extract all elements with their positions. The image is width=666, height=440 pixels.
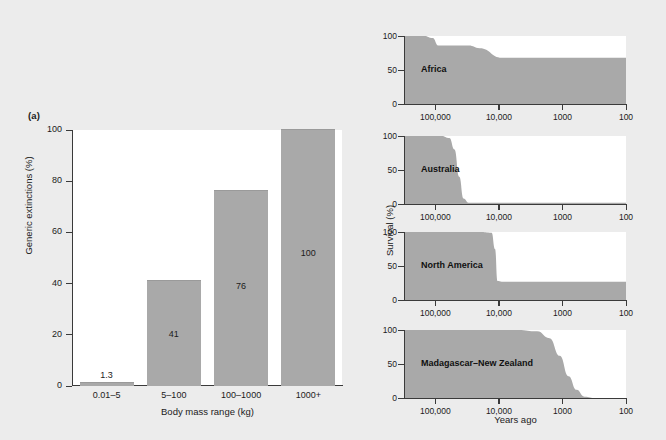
panel-b-x-tick xyxy=(562,105,563,110)
panel-b-x-tick-label: 100 xyxy=(603,308,649,318)
panel-b-subpanel: 050100100,00010,0001000100Australia xyxy=(405,136,626,224)
panel-b-x-tick xyxy=(435,105,436,110)
panel-b-y-axis xyxy=(404,136,405,204)
panel-b-x-tick-label: 100,000 xyxy=(412,112,458,122)
panel-a-bar-value: 41 xyxy=(147,329,201,339)
panel-b-y-tick xyxy=(398,36,404,37)
panel-b-y-tick xyxy=(398,330,404,331)
panel-b-y-tick-label: 50 xyxy=(371,65,397,75)
panel-b-x-tick xyxy=(435,301,436,306)
panel-b-y-tick xyxy=(398,232,404,233)
panel-b-y-tick xyxy=(398,170,404,171)
panel-a-y-axis-title: Generic extinctions (%) xyxy=(23,126,34,286)
panel-b-x-tick xyxy=(435,205,436,210)
panel-b-y-tick xyxy=(398,136,404,137)
panel-b-x-tick xyxy=(435,399,436,404)
panel-a-bar-value: 1.3 xyxy=(80,370,134,380)
panel-a-y-axis xyxy=(72,130,73,386)
panel-a-y-title-wrap: Generic extinctions (%) xyxy=(0,0,72,440)
panel-b-region-label: North America xyxy=(421,260,483,270)
panel-b-x-axis xyxy=(404,204,627,205)
panel-b-x-axis xyxy=(404,398,627,399)
panel-b-y-tick-label: 50 xyxy=(371,165,397,175)
panel-b-x-axis xyxy=(404,104,627,105)
panel-b-subpanel: 050100100,00010,0001000100Africa xyxy=(405,36,626,124)
panel-a-bar-value: 100 xyxy=(281,248,335,258)
panel-b-y-tick-label: 100 xyxy=(371,131,397,141)
panel-b-y-axis xyxy=(404,232,405,300)
panel-b-x-axis xyxy=(404,300,627,301)
panel-b-y-tick-label: 100 xyxy=(371,31,397,41)
panel-b-y-tick xyxy=(398,266,404,267)
panel-b-x-tick-label: 100,000 xyxy=(412,308,458,318)
panel-b-x-tick xyxy=(498,301,499,306)
panel-b-x-tick-label: 1000 xyxy=(539,112,585,122)
panel-b-x-tick-label: 1000 xyxy=(539,308,585,318)
panel-b-x-tick xyxy=(562,399,563,404)
panel-b-y-tick xyxy=(398,104,404,105)
panel-b-y-tick-label: 100 xyxy=(371,227,397,237)
panel-b-x-tick xyxy=(498,205,499,210)
panel-b-x-tick-label: 10,000 xyxy=(476,112,522,122)
panel-b-y-axis xyxy=(404,330,405,398)
panel-b-x-tick-label: 100,000 xyxy=(412,212,458,222)
panel-a: (a) 020406080100 Generic extinctions (%)… xyxy=(0,0,352,440)
panel-b: (b) Survival (%) 050100100,00010,0001000… xyxy=(352,0,666,440)
panel-a-bar-value: 76 xyxy=(214,281,268,291)
panel-b-y-tick-label: 0 xyxy=(371,199,397,209)
panel-b-y-tick-label: 50 xyxy=(371,261,397,271)
panel-b-x-tick xyxy=(626,205,627,210)
panel-b-y-tick xyxy=(398,300,404,301)
panel-b-x-axis-title: Years ago xyxy=(405,414,626,425)
panel-b-x-tick-label: 1000 xyxy=(539,212,585,222)
panel-b-x-tick xyxy=(626,399,627,404)
panel-b-x-tick xyxy=(626,301,627,306)
panel-a-x-tick-label: 100–1000 xyxy=(208,390,275,400)
panel-b-x-tick-label: 100 xyxy=(603,212,649,222)
panel-b-y-tick-label: 100 xyxy=(371,325,397,335)
panel-b-y-tick-label: 50 xyxy=(371,359,397,369)
panel-b-x-tick xyxy=(562,301,563,306)
panel-b-y-tick xyxy=(398,70,404,71)
panel-b-x-tick-label: 100 xyxy=(603,112,649,122)
panel-b-y-tick-label: 0 xyxy=(371,99,397,109)
panel-a-bar xyxy=(80,382,134,386)
panel-a-x-tick-label: 5–100 xyxy=(140,390,207,400)
panel-b-y-tick-label: 0 xyxy=(371,295,397,305)
panel-b-x-tick xyxy=(626,105,627,110)
panel-b-region-label: Africa xyxy=(421,64,447,74)
panel-b-subpanel: 050100100,00010,0001000100Madagascar–New… xyxy=(405,330,626,418)
panel-b-x-tick xyxy=(498,105,499,110)
panel-b-y-tick xyxy=(398,364,404,365)
figure-canvas: (a) 020406080100 Generic extinctions (%)… xyxy=(0,0,666,440)
panel-b-x-tick-label: 10,000 xyxy=(476,212,522,222)
panel-b-y-tick xyxy=(398,398,404,399)
panel-a-x-axis-title: Body mass range (kg) xyxy=(72,406,343,417)
panel-b-subpanel: 050100100,00010,0001000100North America xyxy=(405,232,626,320)
panel-a-x-tick-label: 0.01–5 xyxy=(73,390,140,400)
panel-b-y-axis xyxy=(404,36,405,104)
panel-b-region-label: Madagascar–New Zealand xyxy=(421,358,533,368)
panel-a-x-tick-label: 1000+ xyxy=(275,390,342,400)
panel-b-x-tick xyxy=(562,205,563,210)
panel-b-x-tick-label: 10,000 xyxy=(476,308,522,318)
panel-b-x-tick xyxy=(498,399,499,404)
panel-b-y-tick-label: 0 xyxy=(371,393,397,403)
panel-b-y-tick xyxy=(398,204,404,205)
panel-b-region-label: Australia xyxy=(421,164,460,174)
